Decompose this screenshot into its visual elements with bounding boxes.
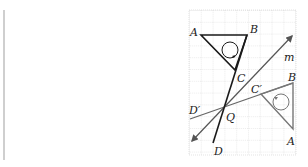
label-d-prime: D′ — [188, 104, 201, 117]
geometry-diagram: A B C m B C′ D′ Q A D — [0, 0, 308, 167]
label-a-top: A — [189, 26, 198, 39]
label-b-right: B — [287, 71, 296, 84]
label-q: Q — [226, 111, 235, 124]
label-c-prime: C′ — [251, 83, 262, 96]
label-m: m — [284, 51, 294, 64]
label-a-right: A — [286, 135, 295, 148]
label-c-top: C — [237, 72, 246, 85]
label-b-top: B — [249, 23, 258, 36]
label-d: D — [213, 145, 223, 158]
